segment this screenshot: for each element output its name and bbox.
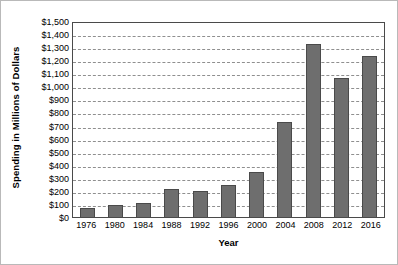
bar — [136, 203, 151, 217]
bar-column — [186, 23, 214, 217]
bar — [277, 122, 292, 217]
y-axis-tick-label: $1,100 — [41, 69, 69, 79]
x-axis-tick-label: 2000 — [243, 220, 271, 234]
bar — [306, 44, 321, 217]
y-axis-tick-label: $300 — [49, 174, 69, 184]
x-axis-tick-label: 1992 — [186, 220, 214, 234]
y-axis-tick-label: $200 — [49, 187, 69, 197]
x-axis-tick-label: 2004 — [271, 220, 299, 234]
y-axis-tick-label: $500 — [49, 148, 69, 158]
bar — [108, 205, 123, 217]
bar-column — [299, 23, 327, 217]
y-axis-tick-label: $800 — [49, 108, 69, 118]
y-axis-tick-label: $1,000 — [41, 82, 69, 92]
bar — [164, 189, 179, 217]
chart-frame: Spending in Millions of Dollars $0$100$2… — [0, 0, 398, 265]
bar-series — [73, 23, 384, 217]
y-axis-tick-label: $1,200 — [41, 56, 69, 66]
y-axis-title-text: Spending in Millions of Dollars — [11, 46, 22, 188]
bar — [249, 172, 264, 217]
bar-column — [243, 23, 271, 217]
x-axis-tick-label: 1996 — [214, 220, 242, 234]
bar — [193, 191, 208, 217]
x-axis-tick-label: 1976 — [72, 220, 100, 234]
x-axis-tick-labels: 1976198019841988199219962000200420082012… — [72, 220, 385, 234]
y-axis-tick-label: $1,500 — [41, 17, 69, 27]
y-axis-tick-label: $700 — [49, 122, 69, 132]
y-axis-tick-label: $100 — [49, 200, 69, 210]
x-axis-tick-label: 1980 — [100, 220, 128, 234]
bar-column — [158, 23, 186, 217]
x-axis-tick-label: 2008 — [300, 220, 328, 234]
y-axis-tick-label: $0 — [59, 213, 69, 223]
bar-column — [101, 23, 129, 217]
bar-column — [356, 23, 384, 217]
x-axis-title: Year — [72, 237, 385, 248]
bar — [334, 78, 349, 217]
y-axis-title: Spending in Millions of Dollars — [9, 19, 23, 215]
x-axis-tick-label: 1988 — [157, 220, 185, 234]
x-axis-tick-label: 2012 — [328, 220, 356, 234]
bar — [221, 185, 236, 217]
y-axis-tick-label: $1,400 — [41, 30, 69, 40]
x-axis-tick-label: 1984 — [129, 220, 157, 234]
y-axis-tick-label: $600 — [49, 135, 69, 145]
bar-column — [271, 23, 299, 217]
plot-area — [72, 22, 385, 218]
y-axis-tick-label: $1,300 — [41, 43, 69, 53]
bar — [362, 56, 377, 217]
bar — [80, 208, 95, 217]
x-axis-tick-label: 2016 — [357, 220, 385, 234]
bar-column — [214, 23, 242, 217]
y-axis-tick-labels: $0$100$200$300$400$500$600$700$800$900$1… — [23, 17, 71, 221]
bar-column — [73, 23, 101, 217]
y-axis-tick-label: $400 — [49, 161, 69, 171]
bar-chart: Spending in Millions of Dollars $0$100$2… — [1, 1, 398, 265]
y-axis-tick-label: $900 — [49, 95, 69, 105]
bar-column — [130, 23, 158, 217]
bar-column — [327, 23, 355, 217]
